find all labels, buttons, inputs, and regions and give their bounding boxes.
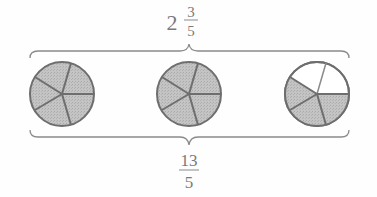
diagram-canvas: 2 3 5 13 5 <box>0 0 377 197</box>
circle-1 <box>30 62 94 126</box>
top-denominator: 5 <box>187 23 195 39</box>
top-mixed-number: 2 3 5 <box>167 4 199 39</box>
bottom-denominator: 5 <box>185 173 194 192</box>
fraction-diagram: 2 3 5 13 5 <box>0 0 377 197</box>
circle-3 <box>285 62 349 126</box>
bottom-numerator: 13 <box>181 151 198 170</box>
bottom-brace <box>30 130 349 145</box>
bottom-fraction: 13 5 <box>179 151 199 192</box>
circle-2 <box>157 62 221 126</box>
top-brace <box>30 44 349 58</box>
top-numerator: 3 <box>187 4 195 20</box>
top-whole: 2 <box>167 10 178 35</box>
